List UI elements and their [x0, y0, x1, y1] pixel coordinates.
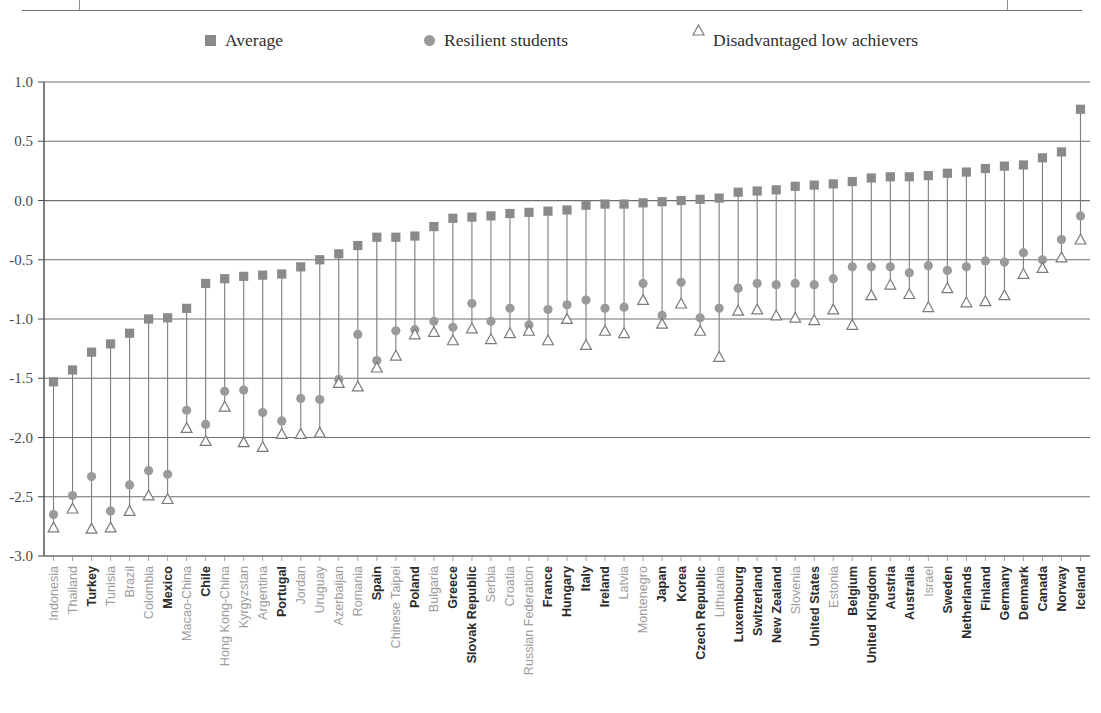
x-axis-category-label: Portugal — [275, 566, 289, 617]
disadvantaged-low-achievers-marker — [942, 283, 953, 293]
resilient-students-marker — [1000, 258, 1009, 267]
x-axis-category-label: Lithuania — [713, 566, 727, 617]
disadvantaged-low-achievers-marker — [86, 523, 97, 533]
disadvantaged-low-achievers-marker — [1056, 252, 1067, 262]
x-axis-category-label: Thailand — [66, 566, 80, 614]
pisa-resilience-scatter-chart: 1.00.50.0-0.5-1.0-1.5-2.0-2.5-3.0Indones… — [0, 0, 1101, 713]
average-marker — [543, 207, 552, 216]
data-column — [333, 249, 344, 387]
x-axis-category-label: Chile — [199, 566, 213, 597]
triangle-marker-icon — [692, 35, 704, 46]
x-axis-category-label: Montenegro — [636, 566, 650, 633]
square-marker-icon — [205, 35, 216, 46]
legend-item-average: Average — [205, 30, 283, 51]
resilient-students-marker — [182, 406, 191, 415]
data-column — [428, 222, 439, 336]
x-axis-category-label: Switzerland — [751, 566, 765, 636]
average-marker — [696, 195, 705, 204]
disadvantaged-low-achievers-marker — [486, 334, 497, 344]
data-column — [828, 179, 839, 314]
resilient-students-marker — [201, 420, 210, 429]
average-marker — [334, 249, 343, 258]
data-column — [295, 262, 306, 438]
average-marker — [220, 274, 229, 283]
disadvantaged-low-achievers-marker — [181, 423, 192, 433]
resilient-students-marker — [68, 491, 77, 500]
resilient-students-marker — [334, 375, 343, 384]
data-column — [999, 162, 1010, 300]
resilient-students-marker — [810, 280, 819, 289]
x-axis-category-label: Slovak Republic — [465, 566, 479, 663]
average-marker — [1000, 162, 1009, 171]
average-marker — [353, 241, 362, 250]
average-marker — [924, 171, 933, 180]
data-column — [809, 180, 820, 324]
data-column — [447, 214, 458, 345]
data-column — [581, 201, 592, 350]
x-axis-category-label: Estonia — [827, 566, 841, 608]
average-marker — [829, 179, 838, 188]
top-divider — [22, 10, 1082, 11]
resilient-students-marker — [581, 295, 590, 304]
x-axis-category-label: Belgium — [846, 566, 860, 616]
x-axis-category-label: Macao-China — [180, 566, 194, 641]
x-axis-category-label: Korea — [675, 565, 689, 602]
y-axis-tick-label: -2.0 — [9, 430, 33, 446]
disadvantaged-low-achievers-marker — [581, 340, 592, 350]
data-column — [124, 329, 135, 516]
data-column — [619, 199, 630, 337]
x-axis-category-label: Serbia — [484, 566, 498, 602]
data-column — [600, 199, 611, 335]
disadvantaged-low-achievers-marker — [276, 429, 287, 439]
disadvantaged-low-achievers-marker — [695, 325, 706, 335]
data-column — [352, 241, 363, 391]
disadvantaged-low-achievers-marker — [638, 295, 649, 305]
resilient-students-marker — [1038, 255, 1047, 264]
top-tick-right — [1007, 0, 1008, 11]
circle-marker-icon — [424, 35, 435, 46]
resilient-students-marker — [829, 274, 838, 283]
average-marker — [962, 167, 971, 176]
average-marker — [505, 209, 514, 218]
data-column — [486, 211, 497, 343]
x-axis-category-label: Canada — [1036, 565, 1050, 611]
x-axis-category-label: France — [541, 566, 555, 607]
resilient-students-marker — [905, 268, 914, 277]
resilient-students-marker — [924, 261, 933, 270]
disadvantaged-low-achievers-marker — [219, 401, 230, 411]
resilient-students-marker — [391, 326, 400, 335]
x-axis-category-label: Romania — [351, 566, 365, 616]
average-marker — [619, 199, 628, 208]
average-marker — [49, 377, 58, 386]
average-marker — [410, 231, 419, 240]
disadvantaged-low-achievers-marker — [257, 442, 268, 452]
resilient-students-marker — [619, 303, 628, 312]
data-column — [467, 212, 478, 332]
x-axis-category-label: Hong Kong-China — [218, 566, 232, 666]
x-axis-category-label: Hungary — [560, 566, 574, 617]
average-marker — [239, 272, 248, 281]
data-column — [638, 198, 649, 304]
legend-label-average: Average — [225, 30, 283, 51]
y-axis-tick-label: -1.5 — [9, 370, 33, 386]
disadvantaged-low-achievers-marker — [333, 378, 344, 388]
resilient-students-marker — [753, 279, 762, 288]
resilient-students-marker — [353, 330, 362, 339]
average-marker — [753, 186, 762, 195]
disadvantaged-low-achievers-marker — [904, 289, 915, 299]
average-marker — [429, 222, 438, 231]
resilient-students-marker — [239, 386, 248, 395]
disadvantaged-low-achievers-marker — [67, 503, 78, 513]
data-column — [657, 197, 668, 328]
average-marker — [677, 196, 686, 205]
disadvantaged-low-achievers-marker — [999, 290, 1010, 300]
disadvantaged-low-achievers-marker — [828, 304, 839, 314]
resilient-students-marker — [600, 304, 609, 313]
average-marker — [68, 365, 77, 374]
disadvantaged-low-achievers-marker — [562, 314, 573, 324]
data-column — [695, 195, 706, 336]
disadvantaged-low-achievers-marker — [752, 304, 763, 314]
x-axis-category-label: Italy — [579, 566, 593, 591]
x-axis-category-label: New Zealand — [770, 566, 784, 643]
resilient-students-marker — [772, 280, 781, 289]
